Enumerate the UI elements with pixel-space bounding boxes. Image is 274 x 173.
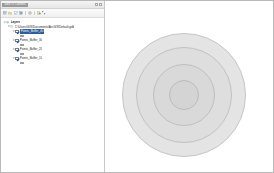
polygon-symbol-swatch[interactable] (20, 62, 24, 65)
polygon-symbol-swatch[interactable] (20, 35, 24, 38)
layer-visibility-checkbox[interactable] (15, 30, 18, 33)
application-window: Table Of Contents (0, 0, 274, 173)
list-by-drawing-order-icon[interactable] (3, 11, 7, 15)
auto-hide-pin-icon[interactable] (95, 3, 98, 6)
polygon-symbol-swatch[interactable] (20, 44, 24, 47)
tree-node-label: C:\Users\GIS\Documents\ArcGIS\Default.gd… (15, 25, 75, 29)
map-data-view[interactable] (105, 1, 273, 172)
layer-visibility-checkbox[interactable] (15, 57, 18, 60)
tree-node-label: Points_Buffer_40 (20, 29, 45, 33)
toc-title-bar: Table Of Contents (1, 1, 104, 9)
polygon-symbol-swatch[interactable] (20, 53, 24, 56)
options-icon[interactable] (28, 11, 32, 15)
toggle-all-icon[interactable] (42, 11, 46, 15)
layer-tree[interactable]: ▾ Layers ▾ (1, 18, 104, 172)
table-of-contents-panel: Table Of Contents (1, 1, 105, 172)
geodatabase-icon (10, 25, 13, 28)
buffer-ring-10[interactable] (169, 80, 199, 110)
tree-node-label: Points_Buffer_20 (20, 47, 43, 51)
panel-window-buttons (95, 3, 103, 6)
layer-visibility-checkbox[interactable] (15, 39, 18, 42)
tree-node-label: Points_Buffer_30 (20, 38, 43, 42)
toolbar-separator (25, 11, 26, 15)
tree-node-label: Layers (11, 20, 21, 24)
close-icon[interactable] (99, 3, 102, 6)
toc-panel-title: Table Of Contents (2, 3, 28, 7)
map-canvas[interactable] (105, 1, 273, 172)
layer-visibility-checkbox[interactable] (15, 48, 18, 51)
tree-node-label: Points_Buffer_10 (20, 56, 43, 60)
toolbar-separator-2 (34, 11, 35, 15)
add-data-icon[interactable] (37, 11, 41, 15)
layer-symbol-row (1, 61, 104, 65)
list-by-selection-icon[interactable] (19, 11, 23, 15)
toc-toolbar (1, 9, 104, 18)
list-by-source-icon[interactable] (8, 11, 12, 15)
list-by-visibility-icon[interactable] (14, 11, 18, 15)
